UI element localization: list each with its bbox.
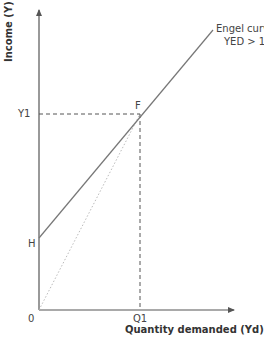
q1-label: Q1 — [133, 314, 147, 324]
diagram-graphics — [0, 0, 264, 348]
engel-curve-line — [39, 30, 213, 238]
engel-curve-diagram: Income (Y) Quantity demanded (Yd) 0 Y1 Q… — [0, 0, 264, 348]
f-label: F — [135, 101, 141, 111]
h-label: H — [28, 239, 36, 249]
curve-label-line1: Engel curve — [216, 24, 264, 34]
curve-label-line2: YED > 1 — [224, 37, 264, 47]
y-axis-label: Income (Y) — [4, 1, 14, 62]
origin-label: 0 — [28, 314, 34, 324]
x-axis-label: Quantity demanded (Yd) — [125, 325, 264, 335]
y1-label: Y1 — [18, 109, 30, 119]
origin-ray-dotted — [39, 114, 140, 310]
